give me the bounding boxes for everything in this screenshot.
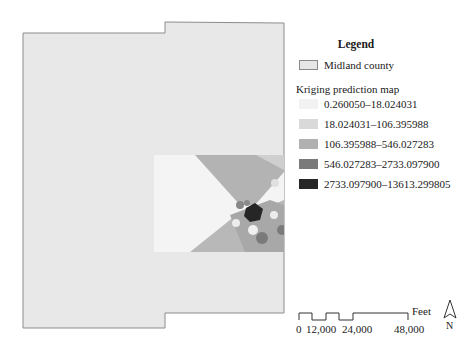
class-swatch <box>299 99 318 109</box>
class-label: 546.027283–2733.097900 <box>324 158 440 170</box>
scale-tick-12000: 12,000 <box>306 323 336 335</box>
map-canvas <box>0 0 468 352</box>
legend-class-4: 546.027283–2733.097900 <box>299 158 440 170</box>
scale-bar <box>299 313 408 320</box>
class-swatch <box>299 179 318 189</box>
class-label: 0.260050–18.024031 <box>324 98 418 110</box>
scale-tick-0: 0 <box>296 323 302 335</box>
legend-class-2: 18.024031–106.395988 <box>299 118 429 130</box>
scale-tick-48000: 48,000 <box>394 323 424 335</box>
class-label: 2733.097900–13613.299805 <box>324 178 451 190</box>
class-swatch <box>299 139 318 149</box>
legend-class-3: 106.395988–546.027283 <box>299 138 434 150</box>
legend-title: Legend <box>296 38 416 50</box>
class-label: 18.024031–106.395988 <box>324 118 429 130</box>
scale-tick-24000: 24,000 <box>342 323 372 335</box>
north-label: N <box>446 320 453 331</box>
scale-unit: Feet <box>412 305 431 317</box>
kriging-raster <box>154 155 287 252</box>
class-swatch <box>299 119 318 129</box>
legend-class-1: 0.260050–18.024031 <box>299 98 418 110</box>
class-label: 106.395988–546.027283 <box>324 138 434 150</box>
class-swatch <box>299 159 318 169</box>
kriging-title: Kriging prediction map <box>296 83 399 95</box>
county-label: Midland county <box>324 59 394 71</box>
legend-class-5: 2733.097900–13613.299805 <box>299 178 451 190</box>
legend-item-county: Midland county <box>299 59 394 71</box>
north-arrow-icon <box>444 300 456 318</box>
county-swatch <box>299 60 318 70</box>
